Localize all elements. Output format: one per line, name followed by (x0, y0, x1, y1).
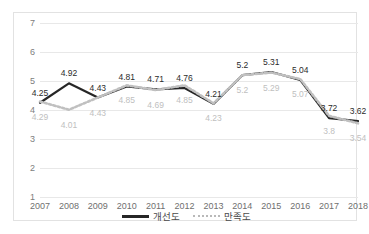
data-label: 4.29 (32, 112, 49, 121)
chart-legend: 개선도 만족도 (14, 209, 358, 223)
data-label: 5.2 (236, 61, 248, 70)
data-label: 5.2 (236, 86, 248, 95)
y-axis-tick-label: 5 (30, 77, 35, 86)
data-label: 4.85 (118, 96, 135, 105)
data-label: 3.8 (323, 126, 335, 135)
chart-screenshot: 1234567 20072008200920102011201220132014… (0, 0, 369, 234)
data-label: 4.92 (61, 69, 78, 78)
data-label: 4.81 (118, 72, 135, 81)
y-axis-tick-label: 3 (30, 135, 35, 144)
data-label: 4.23 (205, 114, 222, 123)
y-axis-tick-label: 6 (30, 48, 35, 57)
data-label: 5.04 (292, 65, 309, 74)
data-label: 3.72 (321, 104, 338, 113)
legend-label: 만족도 (224, 209, 251, 223)
gridline (40, 197, 358, 198)
data-label: 5.29 (263, 83, 280, 92)
data-label: 4.69 (147, 100, 164, 109)
data-label: 4.01 (61, 120, 78, 129)
data-label: 4.21 (205, 89, 222, 98)
data-label: 4.43 (90, 83, 107, 92)
dotted-line-icon (193, 215, 220, 217)
data-label: 4.71 (147, 75, 164, 84)
legend-item-manjokdo[interactable]: 만족도 (193, 209, 251, 223)
data-label: 4.43 (90, 108, 107, 117)
data-label: 4.25 (32, 88, 49, 97)
data-label: 3.62 (350, 107, 367, 116)
legend-item-gaeseondo[interactable]: 개선도 (122, 209, 180, 223)
y-axis-tick-label: 2 (30, 164, 35, 173)
data-label: 4.85 (176, 96, 193, 105)
data-label: 5.07 (292, 89, 309, 98)
data-label: 5.31 (263, 58, 280, 67)
y-axis-tick-label: 7 (30, 19, 35, 28)
series-line-manjokdo (40, 73, 358, 124)
plot-area: 1234567 20072008200920102011201220132014… (40, 23, 358, 197)
data-label: 4.76 (176, 73, 193, 82)
solid-line-icon (122, 215, 149, 218)
chart-frame: 1234567 20072008200920102011201220132014… (13, 12, 357, 221)
series-line-gaeseondo (40, 72, 358, 121)
series-lines (40, 23, 358, 197)
legend-label: 개선도 (153, 209, 180, 223)
data-label: 3.54 (350, 134, 367, 143)
